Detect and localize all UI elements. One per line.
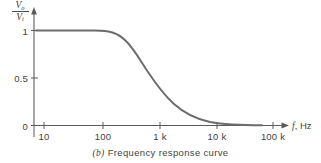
y-axis-label-denominator: Vi bbox=[8, 13, 32, 23]
x-tick-label-100k: 100 k bbox=[261, 131, 285, 142]
figure-caption-text: Frequency response curve bbox=[108, 147, 229, 158]
figure-caption-tag: (b) bbox=[92, 148, 104, 158]
x-axis-label-unit: , Hz bbox=[295, 120, 312, 131]
figure-caption: (b) Frequency response curve bbox=[0, 147, 321, 158]
y-axis-label: Vo Vi bbox=[8, 1, 32, 23]
y-tick-label-0p5: 0.5 bbox=[2, 73, 28, 84]
y-tick-label-1: 1 bbox=[6, 25, 28, 36]
frequency-response-figure: Vo Vi 1 0.5 0 10 100 1 k 10 k 100 k f, H… bbox=[0, 0, 321, 163]
y-axis-label-numerator: Vo bbox=[8, 1, 32, 11]
frequency-response-curve bbox=[36, 31, 262, 126]
y-tick-label-0: 0 bbox=[6, 120, 28, 131]
x-tick-label-1k: 1 k bbox=[153, 131, 166, 142]
x-axis-arrow-icon bbox=[282, 123, 290, 129]
x-axis-label: f, Hz bbox=[292, 120, 312, 131]
x-tick-label-10: 10 bbox=[39, 131, 50, 142]
x-tick-label-100: 100 bbox=[95, 131, 111, 142]
x-tick-label-10k: 10 k bbox=[208, 131, 227, 142]
